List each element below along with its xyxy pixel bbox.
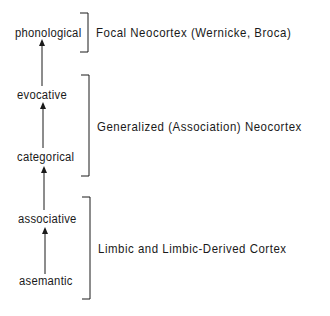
level-evocative: evocative	[17, 88, 67, 102]
arrowhead-icon	[42, 227, 48, 234]
bracket-generalized	[81, 75, 89, 176]
region-generalized-neocortex: Generalized (Association) Neocortex	[97, 119, 302, 134]
level-asemantic: asemantic	[19, 274, 73, 288]
arrowhead-icon	[39, 39, 45, 46]
arrow-categorical-to-evocative	[40, 102, 46, 148]
arrow-associative-to-categorical	[41, 166, 47, 210]
region-limbic-cortex: Limbic and Limbic-Derived Cortex	[98, 241, 287, 256]
bracket-limbic	[82, 197, 90, 299]
arrowhead-icon	[40, 102, 46, 109]
level-phonological: phonological	[15, 26, 81, 40]
arrow-evocative-to-phonological	[39, 39, 45, 86]
level-associative: associative	[18, 212, 77, 226]
arrowhead-icon	[41, 166, 47, 173]
arrow-asemantic-to-associative	[42, 227, 48, 274]
level-categorical: categorical	[17, 150, 74, 164]
region-focal-neocortex: Focal Neocortex (Wernicke, Broca)	[96, 25, 291, 40]
